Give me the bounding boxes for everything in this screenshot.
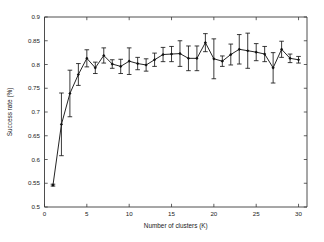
data-point (255, 51, 258, 54)
error-bars (51, 33, 301, 186)
y-tick-label: 0.9 (31, 13, 40, 20)
data-markers (51, 41, 300, 187)
axis-tick-labels: 0510152025300.50.550.60.650.70.750.80.85… (28, 13, 303, 217)
data-point (60, 123, 63, 126)
data-point (297, 58, 300, 61)
y-tick-label: 0.8 (31, 61, 40, 68)
y-tick-label: 0.5 (31, 203, 40, 210)
data-point (68, 92, 71, 95)
axes (45, 17, 308, 207)
y-tick-label: 0.55 (28, 179, 41, 186)
y-tick-label: 0.75 (28, 84, 41, 91)
y-axis-title: Success rate (%) (6, 88, 14, 137)
x-axis-title: Number of clusters (K) (144, 222, 208, 230)
y-tick-label: 0.7 (31, 108, 40, 115)
data-series-line (53, 43, 299, 186)
x-tick-label: 5 (85, 210, 89, 217)
x-tick-label: 25 (253, 210, 260, 217)
y-tick-label: 0.65 (28, 132, 41, 139)
axis-ticks (45, 17, 308, 207)
y-tick-label: 0.6 (31, 156, 40, 163)
data-point (170, 52, 173, 55)
x-tick-label: 30 (295, 210, 302, 217)
x-tick-label: 20 (210, 210, 217, 217)
data-point (246, 49, 249, 52)
y-tick-label: 0.85 (28, 37, 41, 44)
chart-canvas: 0510152025300.50.550.60.650.70.750.80.85… (0, 0, 324, 242)
chart-figure: 0510152025300.50.550.60.650.70.750.80.85… (0, 0, 324, 242)
x-tick-label: 10 (126, 210, 133, 217)
data-point (136, 62, 139, 65)
x-tick-label: 15 (168, 210, 175, 217)
x-tick-label: 0 (43, 210, 47, 217)
